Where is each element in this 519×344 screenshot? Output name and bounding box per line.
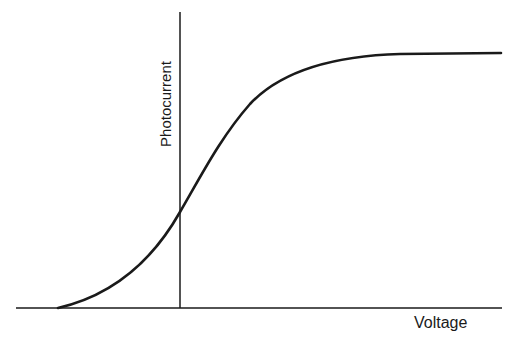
x-axis-label: Voltage xyxy=(414,314,467,332)
y-axis-label: Photocurrent xyxy=(157,61,174,147)
photocurrent-voltage-diagram: Photocurrent Voltage xyxy=(0,0,519,344)
diagram-canvas xyxy=(0,0,519,344)
photocurrent-curve xyxy=(58,53,501,308)
